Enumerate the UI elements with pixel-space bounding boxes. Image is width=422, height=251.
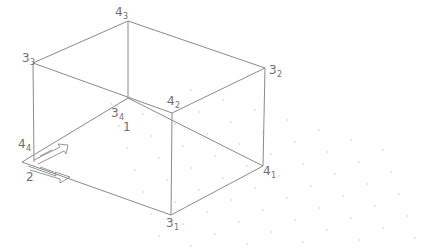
vertex-labels: 433332423414424131 bbox=[18, 5, 282, 232]
grid-dot bbox=[358, 239, 360, 241]
grid-dot bbox=[326, 151, 328, 153]
arrow-up-right-icon bbox=[34, 144, 68, 164]
edge-4-2-vertical bbox=[171, 113, 172, 215]
edge-3-4-to-4-1 bbox=[128, 98, 263, 166]
label-3-1-subscript: 1 bbox=[174, 223, 179, 232]
edge-3-2-vertical bbox=[263, 68, 265, 166]
grid-dot bbox=[142, 191, 144, 193]
grid-dot bbox=[198, 189, 200, 191]
grid-dot bbox=[326, 229, 328, 231]
label-4-3: 4 bbox=[115, 5, 123, 19]
grid-dot bbox=[126, 147, 128, 149]
grid-dot bbox=[302, 163, 304, 165]
grid-dot bbox=[270, 231, 272, 233]
grid-dot bbox=[134, 169, 136, 171]
edge-3-2-to-4-2 bbox=[172, 68, 265, 113]
label-3-4: 3 bbox=[111, 106, 119, 120]
label-4-2: 4 bbox=[167, 94, 175, 108]
grid-dot bbox=[158, 157, 160, 159]
grid-dot bbox=[286, 119, 288, 121]
grid-dot bbox=[222, 99, 224, 101]
grid-dot bbox=[414, 237, 416, 239]
grid-dot bbox=[350, 139, 352, 141]
grid-dot bbox=[230, 121, 232, 123]
grid-dot bbox=[342, 195, 344, 197]
grid-dot bbox=[214, 155, 216, 157]
grid-dot bbox=[286, 197, 288, 199]
grid-dot bbox=[254, 187, 256, 189]
grid-dot bbox=[318, 129, 320, 131]
grid-dot bbox=[398, 193, 400, 195]
grid-dot bbox=[190, 167, 192, 169]
grid-dot bbox=[318, 207, 320, 209]
grid-dot bbox=[246, 165, 248, 167]
grid-dot bbox=[382, 149, 384, 151]
grid-dot bbox=[406, 215, 408, 217]
grid-dot bbox=[254, 109, 256, 111]
grid-dot bbox=[182, 223, 184, 225]
grid-dot bbox=[142, 113, 144, 115]
grid-dot bbox=[150, 135, 152, 137]
label-4-1-subscript: 1 bbox=[271, 171, 276, 180]
arrow-down-right-icon bbox=[28, 166, 70, 183]
grid-dot bbox=[294, 219, 296, 221]
edge-left-to-3-1 bbox=[22, 162, 171, 215]
label-3-3: 3 bbox=[22, 51, 30, 65]
edge-3-3-to-4-3 bbox=[33, 21, 128, 63]
label-4-1: 4 bbox=[263, 164, 271, 178]
grid-dot bbox=[238, 221, 240, 223]
grid-dot bbox=[246, 243, 248, 245]
edge-4-2-to-3-3 bbox=[33, 63, 172, 113]
label-1: 1 bbox=[123, 120, 131, 134]
grid-dot bbox=[334, 173, 336, 175]
grid-dot bbox=[302, 241, 304, 243]
edge-3-3-vertical bbox=[33, 63, 34, 162]
grid-dot bbox=[350, 217, 352, 219]
grid-dot bbox=[238, 143, 240, 145]
grid-dot bbox=[366, 183, 368, 185]
label-4-2-subscript: 2 bbox=[175, 101, 180, 110]
grid-dot bbox=[158, 235, 160, 237]
label-4-4-subscript: 4 bbox=[26, 144, 31, 153]
grid-dot bbox=[190, 89, 192, 91]
grid-dot bbox=[390, 171, 392, 173]
grid-dot bbox=[294, 141, 296, 143]
grid-dot bbox=[190, 245, 192, 247]
grid-dot bbox=[182, 145, 184, 147]
grid-dot bbox=[214, 233, 216, 235]
label-4-3-subscript: 3 bbox=[123, 12, 128, 21]
grid-dot bbox=[374, 205, 376, 207]
grid-dot bbox=[174, 123, 176, 125]
grid-dot bbox=[118, 125, 120, 127]
grid-dot bbox=[278, 175, 280, 177]
grid-dot bbox=[270, 153, 272, 155]
label-3-3-subscript: 3 bbox=[30, 58, 35, 67]
grid-dot bbox=[166, 179, 168, 181]
edge-4-3-to-3-2 bbox=[128, 21, 265, 68]
label-4-4: 4 bbox=[18, 137, 26, 151]
grid-dot bbox=[222, 177, 224, 179]
box-edges bbox=[22, 21, 265, 215]
label-3-2-subscript: 2 bbox=[277, 70, 282, 79]
grid-dot bbox=[230, 199, 232, 201]
grid-dot bbox=[206, 211, 208, 213]
label-3-2: 3 bbox=[269, 63, 277, 77]
grid-dot bbox=[358, 161, 360, 163]
box-diagram: 433332423414424131 bbox=[0, 0, 422, 251]
grid-dot bbox=[262, 209, 264, 211]
label-2: 2 bbox=[26, 170, 34, 184]
grid-dot bbox=[174, 201, 176, 203]
label-3-1: 3 bbox=[166, 216, 174, 230]
grid-dot bbox=[206, 133, 208, 135]
grid-dot bbox=[382, 227, 384, 229]
grid-dot bbox=[198, 111, 200, 113]
edge-3-1-to-4-1 bbox=[171, 166, 263, 215]
grid-dot bbox=[150, 213, 152, 215]
grid-dot bbox=[310, 185, 312, 187]
grid-dot bbox=[110, 103, 112, 105]
